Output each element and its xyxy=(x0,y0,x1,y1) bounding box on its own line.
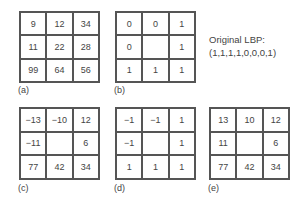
cell: 12 xyxy=(73,108,99,132)
cell: −1 xyxy=(116,108,142,132)
panel-a-grid: 9 12 34 11 22 28 99 64 56 xyxy=(19,11,100,83)
cell: 34 xyxy=(263,155,289,179)
panel-b-grid: 0 0 1 0 1 1 1 1 xyxy=(115,11,196,83)
cell: 34 xyxy=(73,12,99,35)
cell xyxy=(142,35,168,58)
panel-d-label: (d) xyxy=(114,183,125,193)
cell xyxy=(46,132,72,156)
cell: 1 xyxy=(142,155,168,179)
cell: −13 xyxy=(20,108,46,132)
cell: 0 xyxy=(116,35,142,58)
panel-b-label: (b) xyxy=(114,85,125,95)
cell: 64 xyxy=(46,59,72,82)
panel-e-label: (e) xyxy=(208,183,219,193)
panel-a-label: (a) xyxy=(18,85,29,95)
cell: 28 xyxy=(73,35,99,58)
panel-c-label: (c) xyxy=(18,183,29,193)
cell: 77 xyxy=(210,155,236,179)
cell: 77 xyxy=(20,155,46,179)
cell xyxy=(142,132,168,156)
cell: 1 xyxy=(169,108,195,132)
cell: 1 xyxy=(116,155,142,179)
cell: 99 xyxy=(20,59,46,82)
cell: 1 xyxy=(169,132,195,156)
cell: 9 xyxy=(20,12,46,35)
cell: 1 xyxy=(169,59,195,82)
panel-e-grid: 13 10 12 11 6 77 42 34 xyxy=(209,107,290,180)
annotation-line-1: Original LBP: xyxy=(209,33,276,46)
cell: 1 xyxy=(169,155,195,179)
cell: 10 xyxy=(236,108,262,132)
cell: 1 xyxy=(142,59,168,82)
cell: 42 xyxy=(236,155,262,179)
cell: 42 xyxy=(46,155,72,179)
cell: 6 xyxy=(73,132,99,156)
cell: 56 xyxy=(73,59,99,82)
cell: 34 xyxy=(73,155,99,179)
cell: 0 xyxy=(116,12,142,35)
cell: 11 xyxy=(20,35,46,58)
cell: 1 xyxy=(116,59,142,82)
cell: 12 xyxy=(46,12,72,35)
cell: −11 xyxy=(20,132,46,156)
cell: −1 xyxy=(116,132,142,156)
panel-d-grid: −1 −1 1 −1 1 1 1 1 xyxy=(115,107,196,180)
cell: 22 xyxy=(46,35,72,58)
panel-c-grid: −13 −10 12 −11 6 77 42 34 xyxy=(19,107,100,180)
cell: 1 xyxy=(169,12,195,35)
cell: 12 xyxy=(263,108,289,132)
cell: −1 xyxy=(142,108,168,132)
cell: 13 xyxy=(210,108,236,132)
cell: 6 xyxy=(263,132,289,156)
cell: 1 xyxy=(169,35,195,58)
cell: 0 xyxy=(142,12,168,35)
annotation-line-2: (1,1,1,1,0,0,0,1) xyxy=(209,46,276,59)
cell xyxy=(236,132,262,156)
cell: 11 xyxy=(210,132,236,156)
cell: −10 xyxy=(46,108,72,132)
original-lbp-annotation: Original LBP: (1,1,1,1,0,0,0,1) xyxy=(209,33,276,59)
